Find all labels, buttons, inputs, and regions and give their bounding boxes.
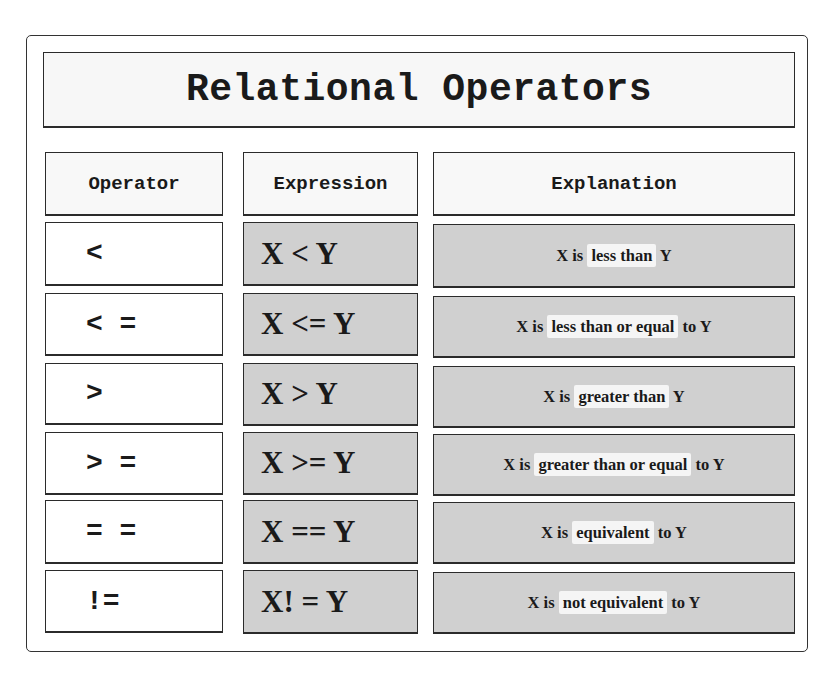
- explanation-suffix: Y: [669, 387, 684, 406]
- header-explanation: Explanation: [433, 152, 795, 216]
- header-operator: Operator: [45, 152, 223, 216]
- operator-cell: > =: [45, 432, 223, 495]
- explanation-cell: X is not equivalent to Y: [433, 572, 795, 634]
- expression-text: X == Y: [261, 514, 355, 550]
- operator-symbol: >: [86, 378, 103, 409]
- explanation-cell: X is less than or equal to Y: [433, 296, 795, 358]
- header-expression-label: Expression: [273, 173, 387, 195]
- explanation-highlight: equivalent: [572, 521, 653, 544]
- explanation-text: X is less than Y: [556, 246, 672, 266]
- explanation-highlight: less than or equal: [547, 315, 678, 338]
- operator-symbol: < =: [86, 309, 136, 340]
- explanation-suffix: Y: [656, 246, 671, 265]
- explanation-suffix: to Y: [667, 593, 700, 612]
- explanation-prefix: X is: [543, 387, 574, 406]
- explanation-cell: X is greater than Y: [433, 366, 795, 428]
- expression-cell: X >= Y: [243, 432, 418, 495]
- expression-text: X! = Y: [261, 584, 348, 620]
- expression-text: X <= Y: [261, 306, 355, 342]
- operator-symbol: > =: [86, 448, 136, 479]
- explanation-cell: X is equivalent to Y: [433, 502, 795, 564]
- expression-cell: X > Y: [243, 363, 418, 426]
- operator-symbol: <: [86, 238, 103, 269]
- operator-cell: <: [45, 222, 223, 286]
- explanation-text: X is not equivalent to Y: [528, 593, 701, 613]
- explanation-highlight: greater than: [574, 385, 669, 408]
- explanation-text: X is equivalent to Y: [541, 523, 687, 543]
- operator-cell: !=: [45, 570, 223, 633]
- expression-cell: X < Y: [243, 222, 418, 286]
- explanation-cell: X is greater than or equal to Y: [433, 434, 795, 496]
- expression-cell: X == Y: [243, 500, 418, 564]
- explanation-prefix: X is: [556, 246, 587, 265]
- explanation-text: X is less than or equal to Y: [516, 317, 712, 337]
- explanation-prefix: X is: [503, 455, 534, 474]
- explanation-highlight: less than: [587, 244, 656, 267]
- operator-cell: >: [45, 363, 223, 425]
- operator-symbol: = =: [86, 516, 136, 547]
- header-expression: Expression: [243, 152, 418, 216]
- expression-cell: X <= Y: [243, 293, 418, 356]
- header-explanation-label: Explanation: [551, 173, 676, 195]
- expression-text: X >= Y: [261, 445, 355, 481]
- explanation-highlight: greater than or equal: [534, 453, 691, 476]
- explanation-text: X is greater than Y: [543, 387, 685, 407]
- title-box: Relational Operators: [43, 52, 795, 128]
- explanation-suffix: to Y: [678, 317, 711, 336]
- operator-cell: = =: [45, 500, 223, 564]
- explanation-highlight: not equivalent: [559, 591, 667, 614]
- operator-symbol: !=: [86, 586, 120, 617]
- explanation-suffix: to Y: [691, 455, 724, 474]
- operator-cell: < =: [45, 293, 223, 356]
- explanation-suffix: to Y: [654, 523, 687, 542]
- expression-text: X < Y: [261, 236, 338, 272]
- explanation-prefix: X is: [516, 317, 547, 336]
- expression-text: X > Y: [261, 376, 338, 412]
- page-title: Relational Operators: [186, 68, 652, 111]
- explanation-prefix: X is: [528, 593, 559, 612]
- header-operator-label: Operator: [88, 173, 179, 195]
- expression-cell: X! = Y: [243, 570, 418, 634]
- explanation-prefix: X is: [541, 523, 572, 542]
- explanation-cell: X is less than Y: [433, 224, 795, 288]
- explanation-text: X is greater than or equal to Y: [503, 455, 724, 475]
